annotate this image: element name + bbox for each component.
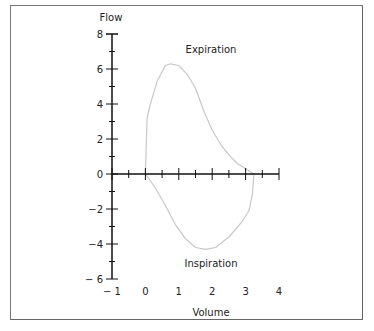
y-axis-label: Flow [100, 12, 123, 23]
inspiration-label: Inspiration [184, 258, 237, 269]
y-tick-label: 2 [97, 134, 103, 145]
expiration-curve [145, 64, 254, 174]
y-tick-label: 8 [97, 29, 103, 40]
y-tick-label: −2 [88, 204, 103, 215]
expiration-label: Expiration [186, 44, 237, 55]
y-tick-label: −4 [88, 239, 103, 250]
x-axis-label: Volume [192, 307, 229, 318]
x-tick-label: 1 [176, 286, 182, 297]
x-tick-label: 2 [209, 286, 215, 297]
flow-volume-chart: 86420−2−4− 6− 101234FlowVolumeExpiration… [0, 0, 374, 331]
inspiration-curve [145, 174, 254, 249]
y-tick-label: 4 [97, 99, 103, 110]
y-tick-label: 0 [97, 169, 103, 180]
x-tick-label: 0 [142, 286, 148, 297]
y-tick-label: 6 [97, 64, 103, 75]
y-tick-label: − 6 [85, 274, 103, 285]
x-tick-label: − 1 [103, 286, 121, 297]
x-tick-label: 3 [242, 286, 248, 297]
x-tick-label: 4 [276, 286, 282, 297]
